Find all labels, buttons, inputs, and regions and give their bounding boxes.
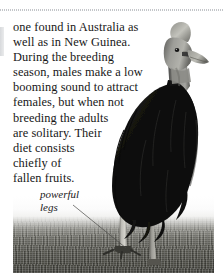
document-page: one found in Australia as well as in New… — [0, 0, 224, 273]
caption-powerful-legs: powerful legs — [40, 188, 79, 214]
caption-line: powerful — [40, 188, 79, 201]
caption-line: legs — [40, 201, 79, 214]
caption-leader-line — [0, 0, 224, 273]
